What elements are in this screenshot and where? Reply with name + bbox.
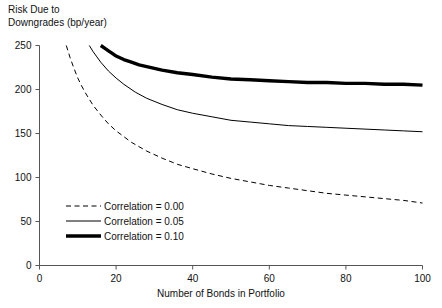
x-tick-label: 80 — [340, 273, 352, 284]
x-tick-label: 20 — [111, 273, 123, 284]
x-tick-label: 40 — [187, 273, 199, 284]
y-axis-ticks: 050100150200250 — [15, 40, 40, 271]
data-series — [66, 46, 422, 204]
x-axis-ticks: 020406080100 — [37, 266, 432, 284]
chart-legend: Correlation = 0.00Correlation = 0.05Corr… — [66, 201, 184, 242]
legend-label-0: Correlation = 0.00 — [104, 201, 184, 212]
x-tick-label: 0 — [37, 273, 43, 284]
series-line-1 — [89, 46, 422, 132]
y-tick-label: 150 — [15, 128, 32, 139]
y-tick-label: 50 — [20, 216, 32, 227]
y-tick-label: 250 — [15, 40, 32, 51]
x-tick-label: 100 — [414, 273, 431, 284]
x-tick-label: 60 — [264, 273, 276, 284]
y-tick-label: 100 — [15, 172, 32, 183]
plot-canvas: 050100150200250 020406080100 Correlation… — [0, 0, 442, 308]
x-axis-title: Number of Bonds in Portfolio — [0, 288, 442, 301]
legend-label-2: Correlation = 0.10 — [104, 231, 184, 242]
y-tick-label: 200 — [15, 84, 32, 95]
series-line-2 — [101, 46, 423, 86]
legend-label-1: Correlation = 0.05 — [104, 216, 184, 227]
y-tick-label: 0 — [26, 260, 32, 271]
series-line-0 — [66, 46, 422, 204]
risk-downgrades-chart: Risk Due to Downgrades (bp/year) 0501001… — [0, 0, 442, 308]
